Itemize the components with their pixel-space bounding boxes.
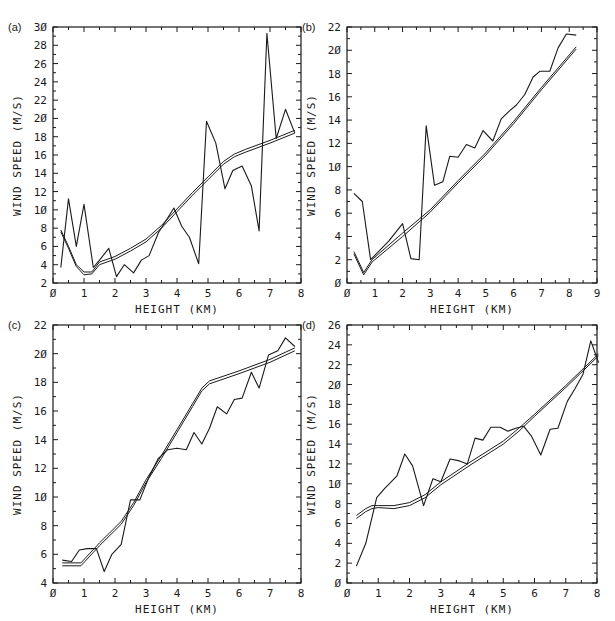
x-axis-title: HEIGHT (KM): [430, 603, 514, 616]
series-fit-lower: [62, 351, 294, 566]
y-tick-label: 16: [34, 405, 47, 418]
x-tick-label: 2: [406, 587, 413, 600]
y-tick-label: 24: [328, 339, 342, 352]
chart-panel-b: Ø123456789Ø24681Ø121416182Ø22(b)HEIGHT (…: [302, 21, 600, 316]
y-tick-label: 4: [334, 230, 341, 243]
x-tick-label: 7: [267, 587, 274, 600]
y-tick-label: 16: [328, 418, 341, 431]
y-tick-label: 24: [34, 76, 48, 89]
plot-frame: [347, 325, 597, 583]
x-tick-label: 6: [236, 587, 243, 600]
series-fit-upper: [356, 354, 598, 516]
y-tick-label: 2Ø: [34, 112, 48, 125]
x-tick-label: Ø: [344, 287, 351, 300]
y-tick-label: 14: [328, 114, 342, 127]
y-tick-label: Ø: [334, 277, 341, 290]
x-tick-label: Ø: [344, 587, 351, 600]
x-tick-label: 8: [566, 287, 573, 300]
y-tick-label: 6: [40, 548, 47, 561]
y-axis-title: WIND SPEED (M/S): [305, 94, 318, 216]
y-tick-label: 18: [328, 398, 341, 411]
y-tick-label: 18: [34, 131, 47, 144]
y-tick-label: 2: [334, 254, 341, 267]
y-tick-label: 16: [34, 149, 47, 162]
y-tick-label: 2Ø: [328, 379, 342, 392]
y-tick-label: Ø: [334, 577, 341, 590]
y-tick-label: 12: [328, 137, 341, 150]
x-tick-label: 1: [81, 587, 88, 600]
y-tick-label: 18: [34, 376, 47, 389]
series-observed: [354, 34, 576, 260]
chart-panel-d: Ø12345678Ø24681Ø121416182Ø222426(d)HEIGH…: [302, 319, 600, 616]
y-tick-label: 14: [34, 167, 48, 180]
y-tick-label: 6: [334, 207, 341, 220]
y-tick-label: 1Ø: [328, 478, 342, 491]
chart-panel-a: Ø1234567824681Ø121416182Ø222426283Ø(a)HE…: [8, 21, 304, 316]
y-tick-label: 8: [334, 498, 341, 511]
x-tick-label: 8: [594, 587, 601, 600]
figure-canvas: Ø1234567824681Ø121416182Ø222426283Ø(a)HE…: [0, 0, 615, 621]
y-tick-label: 2: [40, 277, 47, 290]
y-tick-label: 2: [334, 557, 341, 570]
x-axis-title: HEIGHT (KM): [430, 303, 514, 316]
series-fit-upper: [61, 130, 295, 272]
series-fit-upper: [62, 348, 294, 563]
x-tick-label: Ø: [50, 287, 57, 300]
x-tick-label: 4: [469, 587, 476, 600]
y-tick-label: 4: [334, 537, 341, 550]
x-tick-label: 2: [399, 287, 406, 300]
x-tick-label: 8: [298, 287, 305, 300]
x-tick-label: 3: [427, 287, 434, 300]
x-tick-label: 4: [174, 287, 181, 300]
series-observed: [62, 338, 294, 572]
series-fit-lower: [354, 49, 576, 275]
y-tick-label: 22: [328, 359, 341, 372]
y-tick-label: 28: [34, 39, 47, 52]
y-tick-label: 1Ø: [34, 204, 48, 217]
y-tick-label: 22: [328, 21, 341, 34]
y-tick-label: 14: [328, 438, 342, 451]
y-tick-label: 2Ø: [34, 348, 48, 361]
x-tick-label: 5: [483, 287, 490, 300]
y-tick-label: 18: [328, 68, 341, 81]
x-tick-label: 2: [112, 287, 119, 300]
panel-label: (d): [302, 319, 315, 331]
x-tick-label: 7: [562, 587, 569, 600]
x-tick-label: 5: [500, 587, 507, 600]
plot-frame: [53, 325, 301, 583]
x-tick-label: 1: [371, 287, 378, 300]
x-tick-label: 3: [437, 587, 444, 600]
y-tick-label: 22: [34, 94, 47, 107]
y-tick-label: 6: [40, 240, 47, 253]
y-tick-label: 26: [328, 319, 341, 332]
y-tick-label: 12: [34, 462, 47, 475]
x-tick-label: 6: [236, 287, 243, 300]
x-tick-label: 7: [267, 287, 274, 300]
x-tick-label: 4: [174, 587, 181, 600]
y-tick-label: 8: [334, 184, 341, 197]
y-tick-label: 3Ø: [34, 21, 48, 34]
y-tick-label: 26: [34, 58, 47, 71]
series-fit-upper: [354, 47, 576, 273]
y-tick-label: 22: [34, 319, 47, 332]
y-tick-label: 4: [40, 577, 47, 590]
x-tick-label: 3: [143, 287, 150, 300]
series-observed: [61, 33, 295, 276]
x-tick-label: 5: [205, 587, 212, 600]
y-tick-label: 4: [40, 259, 47, 272]
x-tick-label: 7: [538, 287, 545, 300]
y-tick-label: 12: [34, 186, 47, 199]
x-tick-label: 3: [143, 587, 150, 600]
chart-panel-c: Ø123456784681Ø121416182Ø22(c)HEIGHT (KM)…: [8, 319, 304, 616]
y-tick-label: 8: [40, 520, 47, 533]
x-tick-label: 4: [455, 287, 462, 300]
x-tick-label: 5: [205, 287, 212, 300]
x-tick-label: 1: [81, 287, 88, 300]
x-axis-title: HEIGHT (KM): [135, 603, 219, 616]
x-tick-label: 6: [531, 587, 538, 600]
y-tick-label: 1Ø: [328, 161, 342, 174]
y-tick-label: 8: [40, 222, 47, 235]
y-tick-label: 2Ø: [328, 44, 342, 57]
panel-label: (b): [302, 21, 315, 33]
x-tick-label: Ø: [50, 587, 57, 600]
